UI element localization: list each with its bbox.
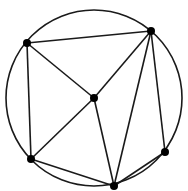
node-B: [147, 27, 155, 35]
edge-A-D: [27, 43, 31, 159]
edge-B-F: [151, 31, 165, 152]
node-A: [23, 39, 31, 47]
edge-A-C: [27, 43, 94, 98]
node-D: [27, 155, 35, 163]
edges: [27, 31, 165, 186]
edge-D-E: [31, 159, 114, 186]
edge-A-B: [27, 31, 151, 43]
edge-C-E: [94, 98, 114, 186]
node-E: [110, 182, 118, 190]
graph-diagram: [0, 0, 188, 191]
node-C: [90, 94, 98, 102]
node-F: [161, 148, 169, 156]
edge-C-D: [31, 98, 94, 159]
edge-B-E: [114, 31, 151, 186]
